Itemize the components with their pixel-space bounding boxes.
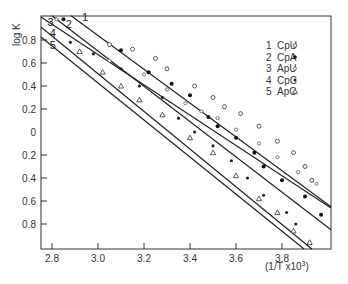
point-cpa bbox=[252, 151, 256, 155]
point-cpa bbox=[147, 70, 151, 74]
x-axis-ticks: 2.83.03.23.43.63.8 bbox=[45, 243, 289, 264]
legend-marker-icon bbox=[293, 44, 297, 48]
point-cpc bbox=[230, 159, 233, 162]
point-cpu bbox=[292, 151, 296, 155]
x-tick-label: 3.4 bbox=[183, 253, 197, 264]
point-apu bbox=[234, 128, 237, 131]
point-cpu bbox=[131, 47, 135, 51]
point-cpc bbox=[193, 130, 196, 133]
point-cpu bbox=[108, 43, 112, 47]
x-tick-label: 2.8 bbox=[45, 253, 59, 264]
y-tick-label: 0.8 bbox=[22, 35, 36, 46]
y-axis-ticks: 0.80.60.40.200.20.40.60.8 bbox=[22, 35, 47, 230]
line-label-4: 4 bbox=[50, 27, 56, 39]
point-apu bbox=[108, 59, 111, 62]
point-cpa bbox=[280, 178, 284, 182]
point-cpu bbox=[310, 178, 314, 182]
point-cpu bbox=[257, 124, 261, 128]
y-tick-label: 0.8 bbox=[22, 219, 36, 230]
point-cpc bbox=[246, 176, 249, 179]
point-cpu bbox=[303, 165, 307, 169]
point-apc bbox=[100, 70, 105, 75]
line-label-3: 3 bbox=[47, 16, 53, 28]
x-tick-label: 3.2 bbox=[137, 253, 151, 264]
point-cpa bbox=[303, 194, 307, 198]
point-apu bbox=[257, 142, 260, 145]
point-apc bbox=[77, 49, 82, 54]
point-apc bbox=[118, 83, 123, 88]
point-apc bbox=[187, 135, 192, 140]
legend-item-apc: 5ApC bbox=[266, 86, 297, 97]
y-tick-label: 0.2 bbox=[22, 104, 36, 115]
fit-line-apc bbox=[41, 37, 304, 249]
legend-number: 2 bbox=[266, 52, 272, 63]
point-cpu bbox=[239, 112, 243, 116]
point-cpu bbox=[165, 67, 169, 71]
arrhenius-chart: 2.83.03.23.43.63.8 0.80.60.40.200.20.40.… bbox=[0, 0, 348, 284]
point-cpa bbox=[188, 93, 192, 97]
point-cpa bbox=[262, 165, 266, 169]
y-tick-label: 0.4 bbox=[22, 81, 36, 92]
point-apu bbox=[184, 102, 187, 105]
point-cpa bbox=[234, 136, 238, 140]
point-cpu bbox=[211, 96, 215, 100]
point-apu bbox=[297, 171, 300, 174]
line-label-5: 5 bbox=[50, 39, 56, 51]
point-cpu bbox=[154, 56, 158, 60]
legend-number: 5 bbox=[266, 86, 272, 97]
x-tick-label: 3.6 bbox=[229, 253, 243, 264]
point-cpc bbox=[69, 41, 72, 44]
point-cpu bbox=[193, 84, 197, 88]
y-tick-label: 0 bbox=[30, 127, 36, 138]
legend: 1CpU2CpA3ApU4CpC5ApC bbox=[266, 40, 297, 97]
legend-number: 3 bbox=[266, 63, 272, 74]
point-cpc bbox=[92, 52, 95, 55]
point-apc bbox=[256, 196, 261, 201]
point-apu bbox=[142, 73, 145, 76]
point-apc bbox=[275, 210, 280, 215]
point-apu bbox=[165, 88, 168, 91]
point-cpc bbox=[211, 144, 214, 147]
legend-item-cpc: 4CpC bbox=[266, 75, 297, 86]
y-tick-label: 0.6 bbox=[22, 196, 36, 207]
y-tick-label: 0.2 bbox=[22, 150, 36, 161]
point-cpa bbox=[170, 82, 174, 86]
point-cpa bbox=[216, 124, 220, 128]
point-cpc bbox=[138, 84, 141, 87]
x-tick-label: 3.0 bbox=[91, 253, 105, 264]
point-cpc bbox=[294, 222, 297, 225]
point-apu bbox=[216, 117, 219, 120]
point-cpu bbox=[275, 139, 279, 143]
legend-marker-icon bbox=[294, 79, 297, 82]
legend-number: 1 bbox=[266, 40, 272, 51]
line-label-2: 2 bbox=[66, 18, 72, 30]
point-apu bbox=[276, 156, 279, 159]
point-apu bbox=[200, 110, 203, 113]
x-axis-label: (1/T x103) bbox=[265, 260, 309, 272]
legend-item-cpa: 2CpA bbox=[266, 52, 297, 63]
point-apc bbox=[233, 173, 238, 178]
legend-item-apu: 3ApU bbox=[266, 63, 297, 74]
point-cpa bbox=[319, 213, 323, 217]
y-tick-label: 0.6 bbox=[22, 58, 36, 69]
point-cpc bbox=[119, 67, 122, 70]
point-apu bbox=[55, 18, 58, 21]
point-apc bbox=[137, 97, 142, 102]
point-cpc bbox=[177, 117, 180, 120]
legend-marker-icon bbox=[294, 67, 297, 70]
legend-number: 4 bbox=[266, 75, 272, 86]
point-cpc bbox=[161, 96, 164, 99]
y-axis-label: log K bbox=[11, 23, 22, 46]
y-tick-label: 0.4 bbox=[22, 173, 36, 184]
point-apu bbox=[315, 182, 318, 185]
legend-marker-icon bbox=[293, 55, 297, 59]
line-label-1: 1 bbox=[82, 11, 88, 23]
point-cpu bbox=[223, 105, 227, 109]
point-apc bbox=[291, 228, 296, 233]
point-apc bbox=[210, 150, 215, 155]
point-cpc bbox=[262, 194, 265, 197]
point-cpa bbox=[206, 115, 210, 119]
point-apc bbox=[307, 240, 312, 245]
point-cpc bbox=[285, 211, 288, 214]
point-apc bbox=[160, 112, 165, 117]
